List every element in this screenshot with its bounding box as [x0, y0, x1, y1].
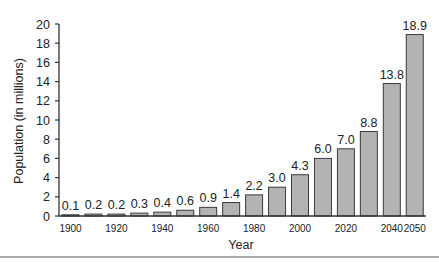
bar-2020: [337, 149, 354, 216]
bar-1950: [177, 210, 194, 216]
value-label-1900: 0.1: [62, 199, 79, 213]
bars: 0.10.20.20.30.40.60.91.42.23.04.36.07.08…: [62, 19, 427, 216]
y-tick-label: 10: [36, 114, 50, 128]
x-tick-label-1960: 1960: [197, 223, 220, 234]
value-label-2040: 13.8: [380, 68, 404, 82]
value-label-1990: 3.0: [268, 171, 285, 185]
bar-2030: [360, 132, 377, 216]
bar-1970: [223, 203, 240, 216]
y-tick-label: 4: [43, 171, 50, 185]
bar-2010: [314, 158, 331, 216]
value-label-2000: 4.3: [291, 159, 308, 173]
x-axis: 190019201940196019802000202020402050: [59, 216, 426, 234]
value-label-2010: 6.0: [314, 142, 331, 156]
bar-2040: [383, 84, 400, 216]
value-label-2050: 18.9: [403, 19, 427, 33]
value-label-2020: 7.0: [337, 133, 354, 147]
x-tick-label-2000: 2000: [289, 223, 312, 234]
y-tick-label: 16: [36, 56, 50, 70]
x-tick-label-1920: 1920: [105, 223, 128, 234]
y-tick-label: 20: [36, 18, 50, 32]
value-label-1950: 0.6: [177, 194, 194, 208]
value-label-2030: 8.8: [360, 116, 377, 130]
x-tick-label-2040: 2040: [381, 223, 404, 234]
y-tick-label: 14: [36, 75, 50, 89]
bar-1960: [200, 207, 217, 216]
x-tick-label-1940: 1940: [151, 223, 174, 234]
y-tick-label: 12: [36, 94, 50, 108]
value-label-1920: 0.2: [108, 198, 125, 212]
value-label-1940: 0.4: [154, 196, 171, 210]
population-bar-chart: 02468101214161820 0.10.20.20.30.40.60.91…: [0, 0, 439, 268]
x-tick-label-1900: 1900: [59, 223, 82, 234]
x-tick-label-2020: 2020: [335, 223, 358, 234]
value-label-1970: 1.4: [222, 187, 239, 201]
y-tick-label: 18: [36, 37, 50, 51]
bar-2050: [406, 35, 423, 216]
bar-1990: [269, 187, 286, 216]
bar-2000: [292, 175, 309, 216]
bar-1980: [246, 195, 263, 216]
value-label-1980: 2.2: [245, 179, 262, 193]
x-axis-title: Year: [228, 238, 253, 252]
y-tick-label: 0: [43, 210, 50, 224]
x-tick-label-2050: 2050: [404, 223, 427, 234]
y-tick-label: 2: [43, 190, 50, 204]
value-label-1910: 0.2: [85, 198, 102, 212]
value-label-1960: 0.9: [200, 191, 217, 205]
y-tick-label: 8: [43, 133, 50, 147]
x-tick-label-1980: 1980: [243, 223, 266, 234]
y-axis: 02468101214161820: [36, 18, 59, 224]
y-tick-label: 6: [43, 152, 50, 166]
value-label-1930: 0.3: [131, 197, 148, 211]
y-axis-title: Population (in millions): [12, 58, 26, 184]
